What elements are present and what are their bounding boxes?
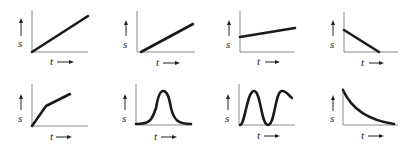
graph-7-curve [240, 91, 292, 125]
graph-6-plot [100, 76, 200, 152]
t-arrow-icon [163, 61, 180, 65]
graph-panel-8: s t [305, 76, 405, 152]
graph-7-plot [205, 76, 305, 152]
t-label: t [50, 56, 53, 67]
graph-8-plot [305, 76, 405, 152]
t-arrow-icon [56, 135, 72, 139]
s-arrow-icon [227, 20, 231, 36]
t-arrow-icon [265, 60, 280, 64]
t-arrow-icon [57, 60, 74, 64]
graph-panel-5: s t [0, 76, 100, 152]
s-arrow-icon [124, 20, 128, 36]
t-label: t [361, 57, 364, 68]
graph-panel-6: s t [100, 76, 200, 152]
graph-3-plot [205, 0, 305, 76]
graph-panel-1: s t [0, 0, 100, 76]
s-label: s [122, 113, 126, 124]
t-label: t [257, 56, 260, 67]
s-arrow-icon [331, 95, 335, 111]
t-label: t [154, 131, 157, 142]
t-arrow-icon [369, 61, 384, 65]
t-label: t [50, 131, 53, 142]
t-label: t [156, 57, 159, 68]
s-arrow-icon [19, 94, 23, 110]
graph-5-curve [32, 94, 70, 126]
graph-4-curve [344, 30, 379, 52]
s-arrow-icon [19, 18, 23, 36]
s-label: s [123, 39, 127, 50]
s-label: s [330, 113, 334, 124]
s-label: s [18, 38, 22, 49]
s-label: s [225, 113, 229, 124]
t-arrow-icon [368, 134, 384, 138]
s-label: s [226, 39, 230, 50]
graph-6-curve [136, 91, 191, 124]
t-label: t [257, 130, 260, 141]
graph-panel-7: s t [205, 76, 305, 152]
graph-panel-2: s t [103, 0, 203, 76]
t-arrow-icon [264, 134, 280, 138]
t-label: t [361, 130, 364, 141]
s-arrow-icon [331, 20, 335, 36]
s-arrow-icon [226, 94, 230, 110]
graph-1-curve [32, 16, 88, 52]
graph-8-curve [343, 90, 394, 124]
s-label: s [330, 39, 334, 50]
graph-2-curve [141, 24, 193, 52]
graph-2-plot [103, 0, 203, 76]
t-arrow-icon [161, 135, 177, 139]
s-arrow-icon [123, 94, 127, 110]
graph-panel-3: s t [205, 0, 305, 76]
s-label: s [18, 113, 22, 124]
graph-4-plot [305, 0, 405, 76]
graph-3-curve [240, 28, 295, 37]
graph-panel-4: s t [305, 0, 405, 76]
